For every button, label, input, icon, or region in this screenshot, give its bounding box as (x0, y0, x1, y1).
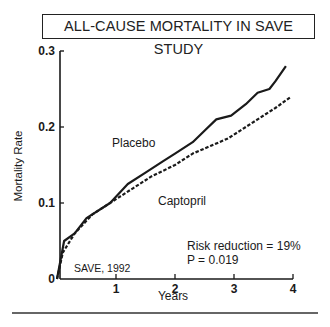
captopril-label: Captopril (158, 194, 206, 208)
bottom-divider (12, 312, 318, 314)
x-axis-label: Years (158, 289, 188, 303)
y-tick-label: 0.3 (38, 44, 55, 58)
risk-reduction-annotation: Risk reduction = 19% (187, 239, 301, 253)
x-tick-label: 1 (113, 282, 120, 296)
y-tick-label: 0.2 (38, 120, 55, 134)
y-tick-label: 0.1 (38, 196, 55, 210)
y-axis-label: Mortality Rate (12, 131, 24, 202)
x-tick-label: 3 (231, 282, 238, 296)
placebo-label: Placebo (112, 136, 156, 150)
x-tick-label: 4 (290, 282, 297, 296)
p-value-annotation: P = 0.019 (187, 253, 239, 267)
chart-plot: 00.10.20.3 1234 Years Mortality Rate Pla… (0, 0, 330, 327)
y-tick-label: 0 (48, 272, 55, 286)
source-annotation: SAVE, 1992 (74, 262, 131, 274)
x-ticks: 1234 (113, 274, 297, 296)
